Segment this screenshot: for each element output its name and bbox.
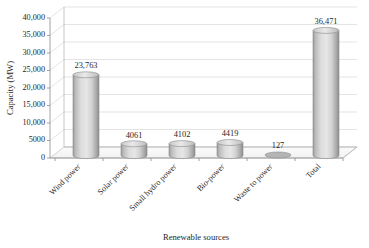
y-tick-label: 35,000	[22, 30, 45, 39]
y-tick-label: 25,000	[22, 65, 45, 74]
category-label: Wind power	[48, 162, 83, 197]
category-label: Solar power	[96, 162, 131, 197]
bar-body	[313, 30, 339, 158]
x-axis-title: Renewable sources	[163, 232, 230, 242]
y-tick-label: 0	[41, 153, 45, 162]
data-label: 127	[272, 141, 285, 150]
bar-top-cap	[217, 140, 243, 146]
gridline-30000	[50, 42, 357, 53]
data-label: 4061	[126, 131, 143, 140]
category-label: Waste to power	[232, 162, 274, 204]
y-tick-label: 5000	[29, 135, 45, 144]
data-label: 23,763	[74, 61, 97, 70]
bar-top-cap	[313, 27, 339, 33]
gridline-35000	[50, 25, 357, 36]
bar-body	[73, 75, 99, 159]
y-tick-label: 10,000	[22, 118, 45, 127]
bar-top-cap	[265, 152, 291, 158]
bar-small-hydro-power[interactable]	[169, 141, 195, 159]
data-label: 4102	[174, 130, 191, 139]
data-label: 36,471	[314, 17, 337, 26]
bar-waste-to-power[interactable]	[265, 152, 291, 158]
chart-container: 40,000 35,000 30,000 25,000 20,000 15,00…	[0, 0, 369, 248]
y-tick-label: 20,000	[22, 83, 45, 92]
bar-wind-power[interactable]	[73, 72, 99, 159]
y-axis-title: Capacity (MW)	[5, 61, 15, 115]
bars-group	[73, 27, 339, 158]
gridline-40000	[50, 7, 357, 18]
bar-top-cap	[121, 141, 147, 147]
bar-total[interactable]	[313, 27, 339, 158]
y-tick-label: 40,000	[22, 13, 45, 22]
bar-bio-power[interactable]	[217, 140, 243, 159]
y-tick-label: 15,000	[22, 100, 45, 109]
bar-chart-3d: 40,000 35,000 30,000 25,000 20,000 15,00…	[0, 0, 369, 248]
bar-top-cap	[169, 141, 195, 147]
y-axis-tick-labels: 40,000 35,000 30,000 25,000 20,000 15,00…	[22, 13, 45, 162]
data-labels-group: 23,763 4061 4102 4419 127 36,471	[74, 17, 337, 151]
bar-solar-power[interactable]	[121, 141, 147, 159]
category-label: Total	[304, 162, 323, 181]
x-axis-category-labels: Wind power Solar power Small hydro power…	[48, 162, 323, 213]
category-label: Small hydro power	[128, 162, 179, 213]
bar-top-cap	[73, 72, 99, 78]
y-tick-label: 30,000	[22, 48, 45, 57]
data-label: 4419	[222, 129, 239, 138]
category-label: Bio-power	[195, 162, 226, 193]
